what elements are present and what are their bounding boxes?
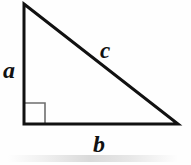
right-triangle-figure: a b c — [0, 0, 191, 165]
side-label-b: b — [93, 132, 105, 156]
side-label-c: c — [100, 39, 110, 62]
side-label-a: a — [3, 58, 15, 82]
right-angle-marker-icon — [24, 103, 45, 124]
triangle-outline — [24, 4, 178, 124]
